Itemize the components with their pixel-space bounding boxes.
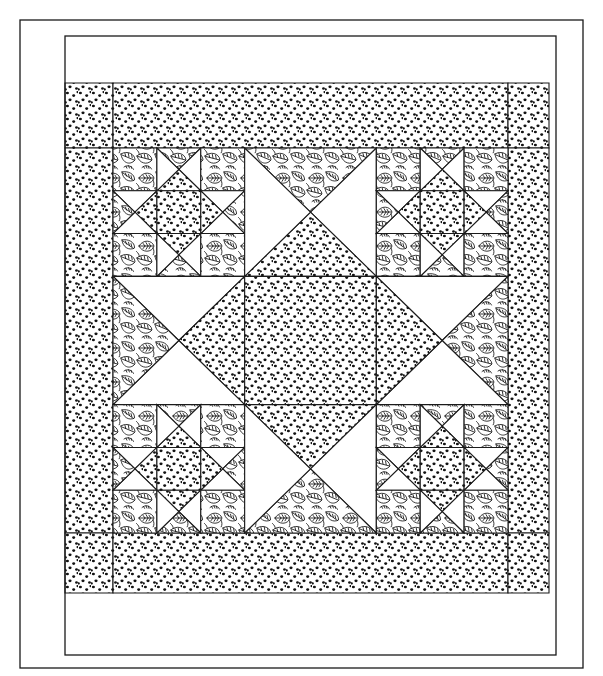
center-square-dotted	[245, 276, 377, 404]
border-strip-left	[65, 148, 113, 533]
quilt-pattern-svg	[0, 0, 603, 676]
corner-ohio-star-top-right-point-left	[376, 191, 420, 234]
corner-ohio-star-bottom-left-point-top	[157, 405, 201, 448]
corner-ohio-star-bottom-right-center-square	[420, 447, 464, 490]
star-point-bottom	[245, 405, 377, 533]
corner-ohio-star-bottom-right-corner-br	[464, 490, 508, 533]
border-corner-square-top-left	[65, 83, 113, 148]
star-point-top	[245, 148, 377, 276]
corner-ohio-star-top-right-corner-tr	[464, 148, 508, 191]
corner-ohio-star-bottom-left-point-bottom	[157, 490, 201, 533]
star-point-right	[376, 276, 508, 404]
corner-ohio-star-top-left-point-right	[201, 191, 245, 234]
corner-ohio-star-bottom-right-point-right	[464, 447, 508, 490]
border-corner-square-top-right	[508, 83, 549, 148]
corner-ohio-star-bottom-right	[376, 405, 508, 533]
corner-ohio-star-top-left-corner-tr	[201, 148, 245, 191]
corner-ohio-star-bottom-right-corner-tl	[376, 405, 420, 448]
corner-ohio-star-top-right-point-right	[464, 191, 508, 234]
border-corner-square-bottom-right	[508, 533, 549, 593]
corner-ohio-star-top-right-corner-br	[464, 234, 508, 277]
center-star-block	[113, 148, 508, 533]
corner-ohio-star-top-left-point-top	[157, 148, 201, 191]
corner-ohio-star-bottom-left-point-right	[201, 447, 245, 490]
corner-ohio-star-top-left-point-left	[113, 191, 157, 234]
corner-ohio-star-bottom-left-corner-bl	[113, 490, 157, 533]
star-point-left	[113, 276, 245, 404]
corner-ohio-star-bottom-left-corner-tl	[113, 405, 157, 448]
border-corner-square-bottom-left	[65, 533, 113, 593]
corner-ohio-star-bottom-left-center-square	[157, 447, 201, 490]
corner-ohio-star-top-right-point-bottom	[420, 234, 464, 277]
corner-ohio-star-top-left-corner-tl	[113, 148, 157, 191]
corner-ohio-star-bottom-right-point-top	[420, 405, 464, 448]
corner-ohio-star-bottom-left-point-left	[113, 447, 157, 490]
corner-ohio-star-top-left-corner-bl	[113, 234, 157, 277]
corner-ohio-star-bottom-left-corner-tr	[201, 405, 245, 448]
border-strip-top	[113, 83, 508, 148]
corner-ohio-star-top-right-corner-bl	[376, 234, 420, 277]
corner-ohio-star-top-left-center-square	[157, 191, 201, 234]
quilt-diagram-canvas	[0, 0, 603, 676]
corner-ohio-star-top-left	[113, 148, 245, 276]
corner-ohio-star-bottom-left	[113, 405, 245, 533]
corner-ohio-star-top-right-corner-tl	[376, 148, 420, 191]
corner-ohio-star-top-left-corner-br	[201, 234, 245, 277]
corner-ohio-star-top-right-center-square	[420, 191, 464, 234]
corner-ohio-star-bottom-right-corner-tr	[464, 405, 508, 448]
quilt-root-group	[20, 20, 583, 668]
corner-ohio-star-top-right-point-top	[420, 148, 464, 191]
corner-ohio-star-bottom-right-corner-bl	[376, 490, 420, 533]
corner-ohio-star-top-right	[376, 148, 508, 276]
corner-ohio-star-top-left-point-bottom	[157, 234, 201, 277]
corner-ohio-star-bottom-right-point-left	[376, 447, 420, 490]
border-strip-right	[508, 148, 549, 533]
border-strip-bottom	[113, 533, 508, 593]
corner-ohio-star-bottom-right-point-bottom	[420, 490, 464, 533]
corner-ohio-star-bottom-left-corner-br	[201, 490, 245, 533]
